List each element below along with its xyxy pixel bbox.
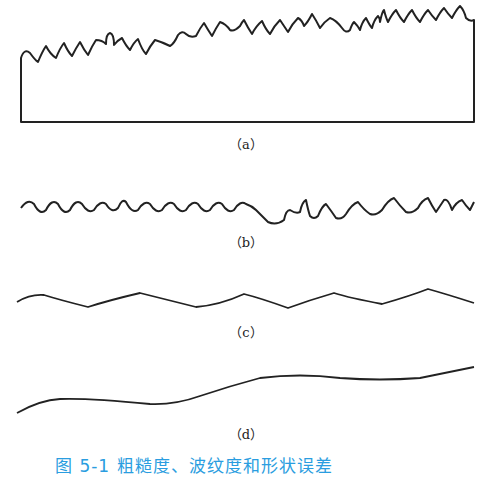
panel-d-label: （d）: [216, 424, 276, 443]
panel-a-label: （a）: [216, 134, 276, 153]
panel-b-roughness: [21, 198, 474, 224]
panel-d-form: [17, 367, 474, 413]
panel-c-waviness: [17, 289, 474, 308]
panel-a-profile: [21, 6, 474, 122]
figure-caption: 图 5-1 粗糙度、波纹度和形状误差: [55, 452, 333, 477]
panel-b-label: （b）: [216, 232, 276, 251]
panel-c-label: （c）: [216, 322, 276, 341]
